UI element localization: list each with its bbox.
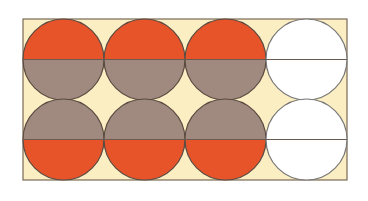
fraction-circles-diagram xyxy=(0,0,368,201)
